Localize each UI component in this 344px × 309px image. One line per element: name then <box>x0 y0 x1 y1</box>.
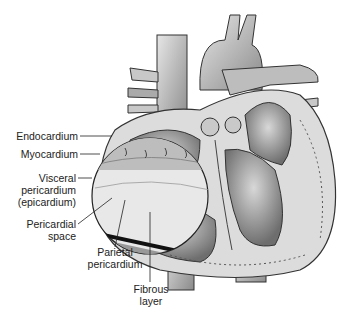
label-parietal-pericardium: Parietal pericardium <box>80 246 150 270</box>
label-line: Pericardial <box>0 218 76 230</box>
label-line: Visceral <box>0 172 76 184</box>
label-line: pericardium <box>80 258 150 270</box>
label-myocardium: Myocardium <box>2 148 78 160</box>
label-line: pericardium <box>0 184 76 196</box>
label-line: Fibrous <box>128 283 174 295</box>
label-pericardial-space: Pericardial space <box>0 218 76 242</box>
label-line: layer <box>128 295 174 307</box>
label-line: Parietal <box>80 246 150 258</box>
label-visceral-pericardium: Visceral pericardium (epicardium) <box>0 172 76 208</box>
label-endocardium: Endocardium <box>2 130 78 142</box>
label-line: space <box>0 230 76 242</box>
label-fibrous-layer: Fibrous layer <box>128 283 174 307</box>
label-line: (epicardium) <box>0 196 76 208</box>
